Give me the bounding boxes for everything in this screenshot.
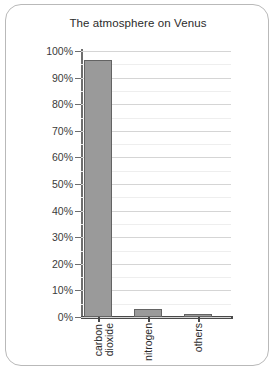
bar bbox=[134, 309, 162, 317]
y-axis-tick bbox=[75, 78, 81, 79]
x-axis-label-line: nitrogen bbox=[142, 323, 154, 361]
chart-card: The atmosphere on Venus 0%10%20%30%40%50… bbox=[5, 4, 269, 366]
y-axis-tick-label: 40% bbox=[52, 205, 73, 217]
y-axis-tick-label: 100% bbox=[46, 45, 73, 57]
y-axis-tick bbox=[75, 51, 81, 52]
y-axis-tick bbox=[75, 317, 81, 318]
y-axis-tick bbox=[75, 131, 81, 132]
y-axis-tick-label: 50% bbox=[52, 178, 73, 190]
y-axis-tick bbox=[75, 157, 81, 158]
y-axis-tick-label: 20% bbox=[52, 258, 73, 270]
y-axis-tick-label: 70% bbox=[52, 125, 73, 137]
gridline-major bbox=[81, 317, 231, 318]
x-axis-category-label: others bbox=[193, 323, 204, 352]
y-axis-tick-label: 0% bbox=[58, 311, 73, 323]
x-axis-category-label: nitrogen bbox=[143, 323, 154, 361]
y-axis-tick-label: 80% bbox=[52, 98, 73, 110]
y-axis-tick bbox=[75, 104, 81, 105]
y-axis-tick bbox=[75, 211, 81, 212]
x-axis-tick bbox=[198, 317, 200, 322]
y-axis-tick bbox=[75, 264, 81, 265]
x-axis-tick bbox=[148, 317, 150, 322]
y-axis-tick bbox=[75, 237, 81, 238]
y-axis-tick-label: 10% bbox=[52, 284, 73, 296]
chart-title: The atmosphere on Venus bbox=[6, 17, 270, 29]
y-axis-tick-label: 60% bbox=[52, 151, 73, 163]
x-axis-label-line: dioxide bbox=[104, 323, 115, 356]
x-axis-label-line: others bbox=[192, 323, 204, 352]
y-axis-tick bbox=[75, 290, 81, 291]
y-axis-tick-label: 90% bbox=[52, 72, 73, 84]
y-axis-tick bbox=[75, 184, 81, 185]
bar bbox=[84, 60, 112, 317]
plot-area: 0%10%20%30%40%50%60%70%80%90%100% bbox=[81, 51, 231, 317]
y-axis-tick-label: 30% bbox=[52, 231, 73, 243]
x-axis-tick bbox=[98, 317, 100, 322]
gridline-major bbox=[81, 51, 231, 52]
x-axis-category-label: carbondioxide bbox=[93, 323, 115, 356]
